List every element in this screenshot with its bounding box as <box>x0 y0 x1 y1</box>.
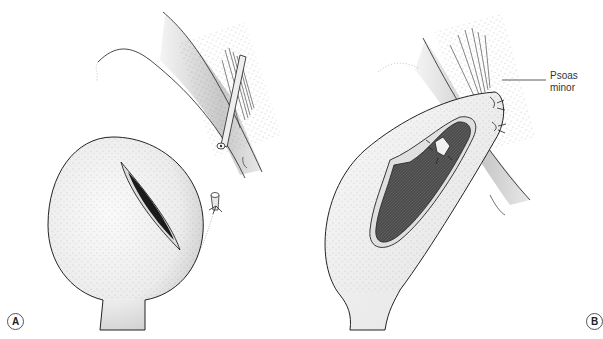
psoas-minor-callout: Psoas minor <box>550 70 590 94</box>
panel-b-illustration: B <box>290 0 589 339</box>
panel-b-drawing <box>290 0 589 339</box>
callout-line-1: Psoas <box>550 70 590 82</box>
panel-a-illustration: A <box>0 0 290 339</box>
panel-label-a: A <box>7 313 24 330</box>
panel-a-drawing <box>0 0 290 339</box>
panel-label-b: B <box>586 313 603 330</box>
callout-line-2: minor <box>550 82 590 94</box>
